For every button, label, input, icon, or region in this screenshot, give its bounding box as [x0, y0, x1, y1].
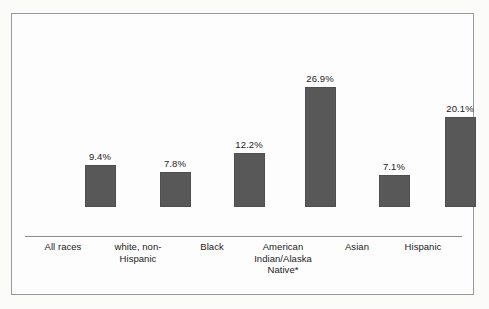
chart-figure-frame: 9.4% All races 7.8% white, non- Hispanic…	[11, 13, 474, 295]
x-axis-baseline	[25, 236, 462, 237]
category-label-line: Indian/Alaska	[237, 253, 329, 265]
bar-group-american-indian-alaska-native: 26.9%	[283, 73, 357, 207]
bar-group-hispanic: 20.1%	[423, 103, 489, 207]
bar-group-white-non-hispanic: 7.8%	[138, 158, 212, 207]
bar-value-label: 26.9%	[283, 73, 357, 84]
bar-value-label: 20.1%	[423, 103, 489, 114]
bar-value-label: 9.4%	[63, 151, 137, 162]
category-label-hispanic: Hispanic	[377, 241, 469, 253]
bar-group-all-races: 9.4%	[63, 151, 137, 207]
bar-value-label: 7.1%	[357, 161, 431, 172]
bar-rect[interactable]	[379, 175, 410, 207]
category-label-line: Native*	[237, 264, 329, 276]
bar-rect[interactable]	[305, 87, 336, 207]
bar-value-label: 12.2%	[212, 139, 286, 150]
chart-plot-area: 9.4% All races 7.8% white, non- Hispanic…	[12, 14, 473, 294]
bar-group-black: 12.2%	[212, 139, 286, 207]
bar-value-label: 7.8%	[138, 158, 212, 169]
bar-rect[interactable]	[160, 172, 191, 207]
bar-rect[interactable]	[85, 165, 116, 207]
bar-rect[interactable]	[445, 117, 476, 207]
bar-rect[interactable]	[234, 153, 265, 207]
category-label-line: Hispanic	[377, 241, 469, 253]
category-label-line: Hispanic	[92, 253, 184, 265]
bar-group-asian: 7.1%	[357, 161, 431, 207]
